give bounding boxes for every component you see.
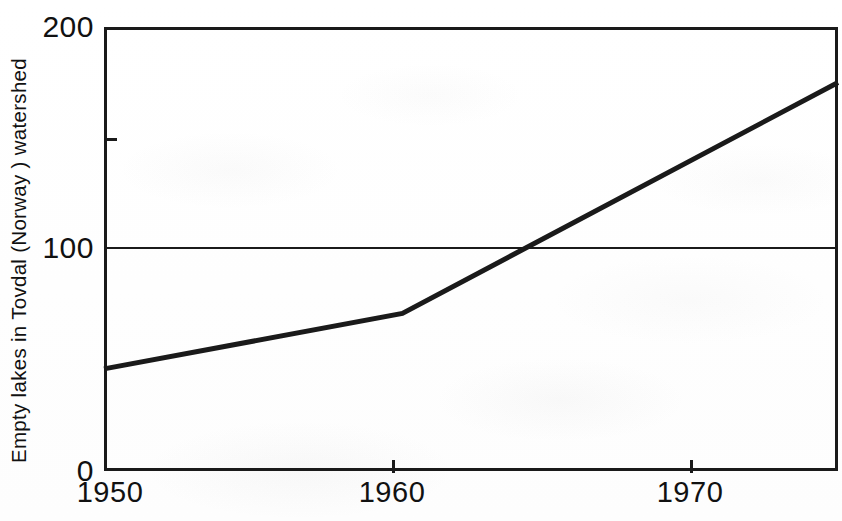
- series-line-empty-lakes: [104, 83, 838, 369]
- line-chart: Empty lakes in Tovdal (Norway ) watershe…: [0, 0, 842, 521]
- data-layer: [0, 0, 842, 521]
